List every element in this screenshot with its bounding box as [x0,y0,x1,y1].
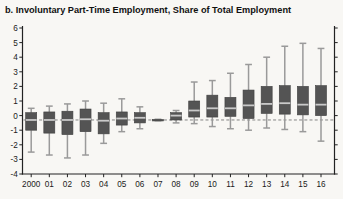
x-tick-label: 08 [172,180,182,189]
y-tick-label: 6 [13,24,18,33]
y-tick-label: -1 [10,126,18,135]
box-10 [207,95,218,117]
x-tick-label: 16 [316,180,326,189]
x-tick-label: 13 [262,180,272,189]
x-tick-label: 01 [45,180,55,189]
x-tick-label: 06 [135,180,145,189]
x-tick-label: 10 [208,180,218,189]
y-tick-label: 1 [13,97,18,106]
y-tick-label: -2 [10,141,18,150]
x-tick-label: 02 [63,180,73,189]
x-tick-label: 05 [117,180,127,189]
y-tick-label: 3 [13,68,18,77]
box-01 [44,112,55,133]
y-tick-label: 5 [13,39,18,48]
y-tick-label: -3 [10,155,18,164]
x-tick-label: 15 [298,180,308,189]
y-tick-label: 4 [13,53,18,62]
boxplot-figure: b. Involuntary Part-Time Employment, Sha… [0,0,343,199]
box-15 [297,86,308,114]
x-tick-label: 12 [244,180,254,189]
y-tick-label: 0 [13,112,18,121]
box-09 [189,101,200,117]
x-tick-label: 14 [280,180,290,189]
box-2000 [26,113,37,131]
x-tick-label: 2000 [22,180,41,189]
box-02 [62,111,73,134]
x-tick-label: 07 [153,180,163,189]
x-tick-label: 11 [226,180,235,189]
x-tick-label: 04 [99,180,109,189]
box-04 [98,113,109,134]
box-13 [261,86,272,113]
box-16 [316,86,327,116]
box-11 [225,97,236,116]
box-07 [152,120,163,121]
boxplot-canvas: -4-3-2-101234562000010203040506070809101… [0,0,343,199]
box-12 [243,90,254,118]
box-14 [279,86,290,114]
box-03 [80,109,91,132]
x-tick-label: 09 [190,180,200,189]
x-tick-label: 03 [81,180,91,189]
y-tick-label: 2 [13,82,18,91]
y-tick-label: -4 [10,170,18,179]
